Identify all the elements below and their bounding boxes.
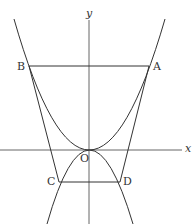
- point-label-C: C: [47, 176, 55, 187]
- point-label-O: O: [80, 153, 89, 164]
- x-axis-label: x: [185, 143, 191, 154]
- downward-parabola: [47, 150, 133, 224]
- line-AD: [120, 66, 149, 182]
- point-label-A: A: [153, 61, 161, 72]
- diagram: y x B A O C D: [0, 0, 194, 224]
- y-axis-label: y: [86, 8, 92, 19]
- point-label-D: D: [123, 176, 132, 187]
- upward-parabola: [14, 19, 165, 150]
- line-BC: [29, 66, 59, 182]
- diagram-canvas: [0, 0, 194, 224]
- point-label-B: B: [17, 61, 25, 72]
